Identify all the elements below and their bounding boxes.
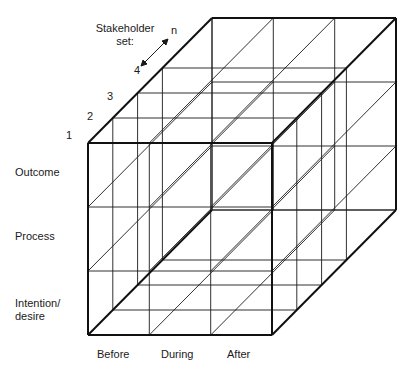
row-label-desire: desire [15,310,60,323]
col-label-before: Before [97,348,129,361]
stakeholder-title-line2: set: [93,35,157,48]
stakeholder-level-1: 1 [66,129,72,141]
stakeholder-level-2: 2 [87,110,93,122]
stakeholder-cube-diagram [0,0,410,375]
stakeholder-level-4: 4 [134,64,140,76]
row-label-intention: Intention/ [15,297,60,310]
stakeholder-level-3: 3 [107,90,113,102]
stakeholder-title-line1: Stakeholder [93,22,157,35]
stakeholder-set-label: Stakeholder set: [93,22,157,48]
col-label-after: After [227,348,250,361]
stakeholder-level-n: n [171,24,177,36]
row-label-process: Process [15,230,55,243]
col-label-during: During [161,348,193,361]
row-label-intention-desire: Intention/ desire [15,297,60,323]
row-label-outcome: Outcome [15,166,60,179]
